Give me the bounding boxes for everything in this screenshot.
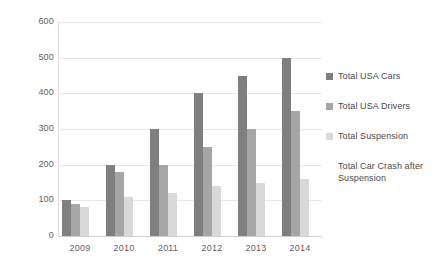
x-tick-label-2010: 2010 — [102, 243, 146, 253]
bar-group-2014 — [282, 22, 318, 236]
bar-group-2012 — [194, 22, 230, 236]
x-tick-label-2014: 2014 — [278, 243, 322, 253]
bar — [80, 207, 89, 236]
bar — [71, 204, 80, 236]
bar — [212, 186, 221, 236]
legend-swatch-icon — [326, 73, 333, 80]
bar — [194, 93, 203, 236]
y-tick-label: 300 — [2, 124, 54, 133]
bar — [300, 179, 309, 236]
bar — [106, 165, 115, 236]
y-tick-label: 0 — [2, 231, 54, 240]
x-tick-label-2011: 2011 — [146, 243, 190, 253]
legend-label: Total Suspension — [338, 130, 408, 142]
bar-group-2013 — [238, 22, 274, 236]
plot-area — [58, 22, 322, 236]
bar — [62, 200, 71, 236]
legend-swatch-icon — [326, 163, 333, 170]
legend-label: Total Car Crash after Suspension — [338, 160, 444, 184]
bar — [291, 111, 300, 236]
y-tick-label: 200 — [2, 160, 54, 169]
bar-group-2011 — [150, 22, 186, 236]
y-tick-label: 500 — [2, 53, 54, 62]
x-tick-label-2012: 2012 — [190, 243, 234, 253]
gridline — [58, 236, 322, 237]
bar — [168, 193, 177, 236]
legend-item-2[interactable]: Total Suspension — [326, 130, 444, 142]
bar — [124, 197, 133, 236]
y-axis-labels: 0100200300400500600 — [0, 22, 54, 236]
legend-item-0[interactable]: Total USA Cars — [326, 70, 444, 82]
y-tick-label: 600 — [2, 17, 54, 26]
bar — [282, 58, 291, 236]
bar — [159, 165, 168, 236]
bar — [115, 172, 124, 236]
legend-swatch-icon — [326, 133, 333, 140]
bar — [256, 183, 265, 237]
x-tick-label-2009: 2009 — [58, 243, 102, 253]
bar — [238, 76, 247, 237]
y-tick-label: 400 — [2, 88, 54, 97]
chart-legend: Total USA CarsTotal USA DriversTotal Sus… — [326, 70, 444, 202]
y-tick-label: 100 — [2, 195, 54, 204]
bar-group-2009 — [62, 22, 98, 236]
legend-item-1[interactable]: Total USA Drivers — [326, 100, 444, 112]
x-tick-label-2013: 2013 — [234, 243, 278, 253]
legend-swatch-icon — [326, 103, 333, 110]
legend-label: Total USA Cars — [338, 70, 400, 82]
bar-chart: 0100200300400500600 Total USA CarsTotal … — [0, 0, 445, 271]
legend-label: Total USA Drivers — [338, 100, 410, 112]
bar-group-2010 — [106, 22, 142, 236]
bar — [150, 129, 159, 236]
bar — [203, 147, 212, 236]
bar — [247, 129, 256, 236]
legend-item-3[interactable]: Total Car Crash after Suspension — [326, 160, 444, 184]
